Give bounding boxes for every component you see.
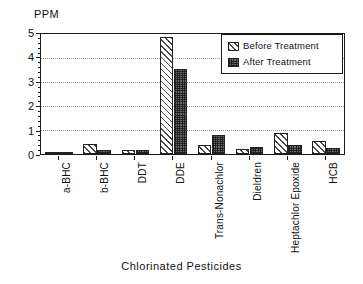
y-tick-label: 1 xyxy=(28,125,34,136)
x-tick-label: DDE xyxy=(176,162,186,184)
bar-after xyxy=(97,150,111,154)
x-tick-mark xyxy=(325,156,326,160)
legend-label-before: Before Treatment xyxy=(243,41,319,51)
bar-chart: PPM 012345 Before Treatment After Treatm… xyxy=(0,0,363,284)
y-tick-label: 2 xyxy=(28,101,34,112)
bar-after xyxy=(136,150,150,154)
bar-after xyxy=(212,135,226,154)
x-tick-label: b-BHC xyxy=(100,162,110,193)
bar-before xyxy=(312,141,326,154)
bar-after xyxy=(174,69,188,154)
x-tick-label: DDT xyxy=(138,162,148,183)
y-tick-label: 3 xyxy=(28,76,34,87)
y-axis-title: PPM xyxy=(34,8,59,20)
x-tick-label: Heptachlor Epoxide xyxy=(291,162,301,253)
bar-before xyxy=(83,144,97,154)
x-tick-mark xyxy=(134,156,135,160)
y-tick-label: 5 xyxy=(28,28,34,39)
x-tick-mark xyxy=(96,156,97,160)
y-tick-label: 0 xyxy=(28,150,34,161)
legend-item-after: After Treatment xyxy=(228,55,338,69)
x-tick-label: Dieldren xyxy=(253,162,263,201)
bar-after xyxy=(326,148,340,154)
bar-before xyxy=(45,152,59,154)
chart-legend: Before Treatment After Treatment xyxy=(221,34,343,74)
x-axis-title: Chlorinated Pesticides xyxy=(0,260,363,272)
x-tick-label: HCB xyxy=(329,162,339,184)
bar-after xyxy=(250,147,264,154)
bar-before xyxy=(122,150,136,154)
legend-label-after: After Treatment xyxy=(243,57,311,67)
x-tick-label: Trans-Nonachlor xyxy=(215,162,225,239)
x-axis-tick-labels: a-BHCb-BHCDDTDDETrans-NonachlorDieldrenH… xyxy=(40,156,345,251)
x-tick-mark xyxy=(211,156,212,160)
x-tick-label: a-BHC xyxy=(62,162,72,193)
bar-before xyxy=(198,145,212,154)
x-tick-mark xyxy=(249,156,250,160)
bar-after xyxy=(59,152,73,154)
bar-before xyxy=(160,37,174,154)
x-tick-mark xyxy=(172,156,173,160)
bar-after xyxy=(288,145,302,154)
x-tick-mark xyxy=(58,156,59,160)
legend-swatch-before-icon xyxy=(228,42,239,51)
y-axis-ticks: 012345 xyxy=(0,33,40,155)
x-tick-mark xyxy=(287,156,288,160)
legend-item-before: Before Treatment xyxy=(228,39,338,53)
legend-swatch-after-icon xyxy=(228,58,239,67)
bar-before xyxy=(236,149,250,154)
bar-before xyxy=(274,133,288,154)
y-tick-label: 4 xyxy=(28,52,34,63)
